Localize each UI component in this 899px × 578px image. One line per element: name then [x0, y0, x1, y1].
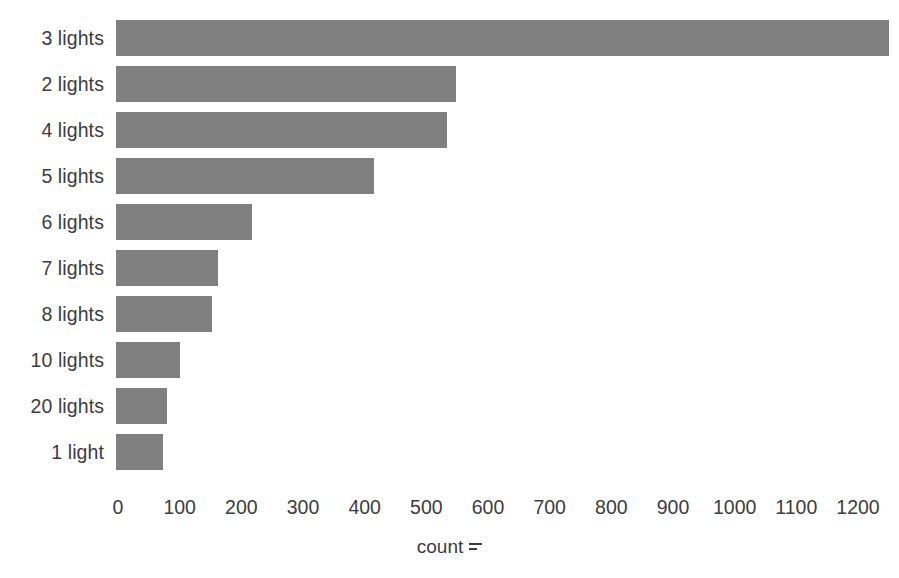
- x-axis-tick-label: 500: [410, 492, 443, 522]
- bar-category-label: 1 light: [0, 434, 104, 470]
- sort-descending-icon: [469, 541, 482, 554]
- bar: [116, 388, 167, 424]
- bar-fill: [116, 204, 252, 240]
- bar-row: 7 lights: [0, 250, 899, 286]
- bar: [116, 296, 212, 332]
- bar-chart: 3 lights2 lights4 lights5 lights6 lights…: [0, 0, 899, 578]
- bar-row: 6 lights: [0, 204, 899, 240]
- bar-row: 2 lights: [0, 66, 899, 102]
- x-axis-tick-label: 800: [595, 492, 628, 522]
- x-axis-tick-label: 1200: [836, 492, 879, 522]
- x-axis-tick-label: 600: [472, 492, 505, 522]
- bar-row: 4 lights: [0, 112, 899, 148]
- plot-area: 3 lights2 lights4 lights5 lights6 lights…: [0, 0, 899, 492]
- bar-category-label: 2 lights: [0, 66, 104, 102]
- bar-fill: [116, 388, 167, 424]
- bar-fill: [116, 250, 218, 286]
- bar: [116, 434, 163, 470]
- bar-row: 20 lights: [0, 388, 899, 424]
- bar-fill: [116, 296, 212, 332]
- bar-category-label: 8 lights: [0, 296, 104, 332]
- bar: [116, 204, 252, 240]
- bar-row: 10 lights: [0, 342, 899, 378]
- bar-category-label: 10 lights: [0, 342, 104, 378]
- bar-row: 1 light: [0, 434, 899, 470]
- bar-row: 3 lights: [0, 20, 899, 56]
- bar-row: 8 lights: [0, 296, 899, 332]
- x-axis-tick-label: 200: [225, 492, 258, 522]
- x-axis-title-container: count: [0, 534, 899, 574]
- x-axis: 0100200300400500600700800900100011001200: [0, 492, 899, 532]
- x-axis-title-label: count: [417, 536, 463, 557]
- x-axis-tick-label: 1100: [775, 492, 817, 522]
- bar-category-label: 7 lights: [0, 250, 104, 286]
- x-axis-tick-label: 900: [657, 492, 690, 522]
- bar-fill: [116, 66, 456, 102]
- x-axis-tick-label: 400: [348, 492, 381, 522]
- bar-category-label: 6 lights: [0, 204, 104, 240]
- bar-fill: [116, 158, 374, 194]
- bar: [116, 342, 180, 378]
- bar-fill: [116, 342, 180, 378]
- bar: [116, 158, 374, 194]
- bar-category-label: 4 lights: [0, 112, 104, 148]
- x-axis-tick-label: 100: [163, 492, 196, 522]
- bar: [116, 250, 218, 286]
- bar: [116, 112, 447, 148]
- bar-fill: [116, 434, 163, 470]
- bar: [116, 20, 889, 56]
- x-axis-tick-label: 300: [287, 492, 320, 522]
- bar-category-label: 3 lights: [0, 20, 104, 56]
- bar-fill: [116, 112, 447, 148]
- x-axis-title: count: [417, 534, 482, 560]
- bar-fill: [116, 20, 889, 56]
- bar-category-label: 5 lights: [0, 158, 104, 194]
- bar: [116, 66, 456, 102]
- x-axis-tick-label: 1000: [713, 492, 756, 522]
- bar-row: 5 lights: [0, 158, 899, 194]
- bar-category-label: 20 lights: [0, 388, 104, 424]
- x-axis-tick-label: 0: [113, 492, 124, 522]
- x-axis-tick-label: 700: [533, 492, 566, 522]
